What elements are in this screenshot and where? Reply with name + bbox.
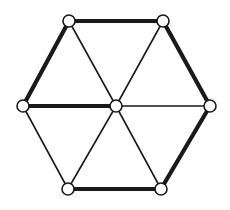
edge-tl-c [69, 21, 116, 106]
vertex-tr [157, 15, 169, 27]
edge-tr-r [163, 21, 210, 106]
edge-tr-c [116, 21, 163, 106]
vertex-r [204, 100, 216, 112]
edge-c-br [116, 106, 161, 189]
vertex-c [110, 100, 122, 112]
edge-l-bl [23, 106, 68, 189]
edge-c-bl [68, 106, 116, 189]
vertex-br [155, 183, 167, 195]
edge-r-br [161, 106, 210, 189]
wheel-graph-diagram [0, 0, 230, 210]
vertex-l [17, 100, 29, 112]
vertex-tl [63, 15, 75, 27]
vertex-bl [62, 183, 74, 195]
edge-tl-l [23, 21, 69, 106]
